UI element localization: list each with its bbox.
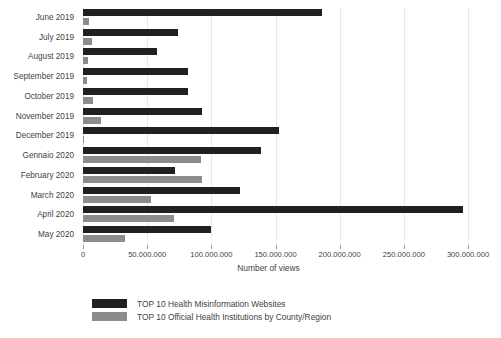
bar-group [83,68,468,86]
x-axis-tick [147,245,148,249]
bar-series-1 [83,117,101,124]
bar-group [83,88,468,106]
bar-series-0 [83,226,211,233]
chart-legend: TOP 10 Health Misinformation WebsitesTOP… [92,297,331,323]
bar-series-0 [83,108,202,115]
y-axis-tick-label: August 2019 [28,52,74,62]
y-axis-tick-label: September 2019 [13,72,74,82]
x-axis-tick-label: 250.000.000 [383,250,425,260]
y-axis-tick-label: February 2020 [21,171,74,181]
bar-series-0 [83,167,175,174]
x-axis-tick [83,245,84,249]
bar-series-1 [83,18,89,25]
bar-group [83,187,468,205]
y-axis-category-labels: June 2019July 2019August 2019September 2… [0,8,79,245]
bar-series-1 [83,196,151,203]
bar-group [83,48,468,66]
gridline [468,8,469,245]
x-axis-title: Number of views [0,263,501,273]
bar-group [83,108,468,126]
legend-swatch [92,312,127,321]
bar-series-0 [83,147,261,154]
legend-swatch [92,299,127,308]
bar-group [83,226,468,244]
bar-series-1 [83,176,202,183]
x-axis-tick-label: 0 [81,250,85,260]
bar-series-1 [83,156,201,163]
x-axis-tick-label: 50.000.000 [128,250,166,260]
bar-series-0 [83,29,178,36]
bar-series-1 [83,38,92,45]
bar-series-0 [83,68,188,75]
x-axis-tick [340,245,341,249]
x-axis-tick-label: 150.000.000 [254,250,296,260]
x-axis-tick [276,245,277,249]
bar-series-1 [83,136,84,143]
legend-item: TOP 10 Health Misinformation Websites [92,297,331,310]
x-axis-tick [404,245,405,249]
bar-series-0 [83,88,188,95]
horizontal-bar-chart: June 2019July 2019August 2019September 2… [0,0,501,338]
y-axis-tick-label: October 2019 [24,92,74,102]
x-axis-tick [211,245,212,249]
y-axis-tick-label: November 2019 [16,112,74,122]
bar-series-1 [83,235,125,242]
bar-series-1 [83,77,87,84]
x-axis-title-text: Number of views [201,263,299,273]
y-axis-tick-label: June 2019 [36,13,74,23]
bar-series-0 [83,48,157,55]
bar-series-0 [83,206,463,213]
bar-series-0 [83,127,279,134]
bar-group [83,9,468,27]
y-axis-tick-label: April 2020 [37,210,74,220]
bar-group [83,127,468,145]
bar-group [83,29,468,47]
bar-series-0 [83,187,240,194]
bar-series-1 [83,57,88,64]
y-axis-tick-label: December 2019 [16,131,74,141]
bar-group [83,147,468,165]
bar-group [83,206,468,224]
plot-area [83,8,468,245]
bar-series-1 [83,97,93,104]
y-axis-tick-label: Gennaio 2020 [23,151,74,161]
legend-label: TOP 10 Health Misinformation Websites [137,299,286,309]
x-axis-tick-label: 300.000.000 [447,250,489,260]
y-axis-tick-label: May 2020 [38,230,74,240]
bar-group [83,167,468,185]
x-axis-tick [468,245,469,249]
x-axis-tick-label: 100.000.000 [190,250,232,260]
y-axis-tick-label: July 2019 [39,33,74,43]
legend-label: TOP 10 Official Health Institutions by C… [137,312,331,322]
y-axis-tick-label: March 2020 [31,191,74,201]
legend-item: TOP 10 Official Health Institutions by C… [92,310,331,323]
x-axis-tick-label: 200.000.000 [319,250,361,260]
bar-series-0 [83,9,322,16]
bar-series-1 [83,215,174,222]
